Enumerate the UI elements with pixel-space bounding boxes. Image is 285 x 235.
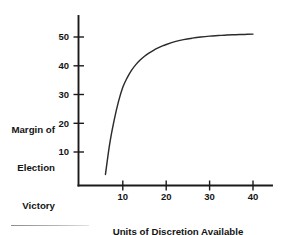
y-axis-title-line-3: Victory — [0, 200, 55, 213]
y-tick-label-40: 40 — [58, 60, 69, 71]
x-axis-title-line-1: Units of Discretion Available — [83, 226, 273, 235]
y-tick-label-20: 20 — [58, 118, 69, 129]
y-axis-tick-labels: 10 20 30 40 50 — [58, 31, 69, 157]
chart-figure: 10 20 30 40 50 10 20 30 40 Margin of Ele… — [0, 0, 285, 235]
y-axis-title: Margin of Election Victory — [0, 99, 55, 235]
footer-divider-rule — [11, 225, 89, 226]
y-tick-label-50: 50 — [58, 31, 69, 42]
y-axis-title-line-1: Margin of — [0, 124, 55, 137]
y-axis-title-line-2: Election — [0, 162, 55, 175]
x-axis-title: Units of Discretion Available for Consum… — [83, 201, 273, 235]
y-tick-label-10: 10 — [58, 146, 69, 157]
data-series-margin-of-election-victory — [105, 34, 253, 174]
y-tick-label-30: 30 — [58, 89, 69, 100]
